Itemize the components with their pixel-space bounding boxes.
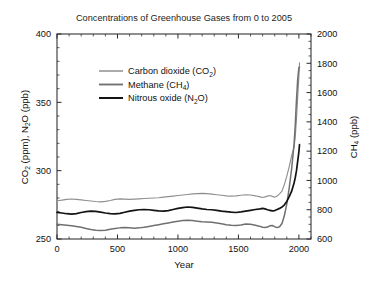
- y-right-tick-label: 1400: [317, 117, 337, 127]
- y-right-tick-label: 1000: [317, 176, 337, 186]
- y-axis-label-right-text: CH4 (ppb): [348, 116, 360, 159]
- y-left-tick-label: 400: [36, 29, 51, 39]
- x-tick-label: 1000: [168, 244, 188, 254]
- x-tick-label: 500: [110, 244, 125, 254]
- y-axis-label-right: CH4 (ppb): [348, 116, 360, 159]
- y-axis-label-left-text: CO2 (ppm), N2O (ppb): [19, 90, 31, 184]
- greenhouse-gas-chart: Concentrations of Greenhouse Gases from …: [0, 0, 382, 282]
- y-right-tick-label: 1200: [317, 146, 337, 156]
- y-left-tick-label: 350: [36, 98, 51, 108]
- legend-label-1: Methane (CH4): [128, 80, 189, 91]
- y-right-tick-label: 800: [317, 205, 332, 215]
- y-left-tick-label: 250: [36, 234, 51, 244]
- x-tick-label: 1500: [228, 244, 248, 254]
- x-axis-label: Year: [174, 259, 194, 270]
- chart-title: Concentrations of Greenhouse Gases from …: [76, 13, 292, 23]
- x-tick-label: 0: [54, 244, 59, 254]
- legend-label-0: Carbon dioxide (CO2): [128, 66, 216, 77]
- y-right-tick-label: 1600: [317, 88, 337, 98]
- x-tick-label: 2000: [289, 244, 309, 254]
- y-right-tick-label: 1800: [317, 59, 337, 69]
- y-axis-label-left: CO2 (ppm), N2O (ppb): [19, 90, 31, 184]
- y-left-tick-label: 300: [36, 166, 51, 176]
- y-right-tick-label: 600: [317, 234, 332, 244]
- y-right-tick-label: 2000: [317, 29, 337, 39]
